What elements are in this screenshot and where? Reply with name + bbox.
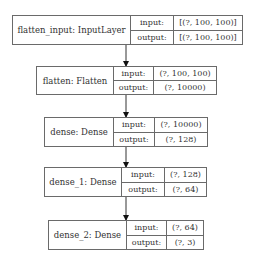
layer-node-flatten: flatten: Flatten input: (?, 100, 100) ou… [36,66,217,95]
layer-node-dense-2: dense_2: Dense input: (?, 64) output: (?… [48,220,204,250]
layer-node-dense-1: dense_1: Dense input: (?, 128) output: (… [44,167,207,197]
input-label: input: [114,67,154,80]
input-shape: (?, 64) [167,221,203,235]
layer-name: flatten: Flatten [37,67,114,94]
input-shape: (?, 128) [165,168,206,182]
input-label: input: [131,16,174,30]
input-label: input: [114,118,155,132]
output-label: output: [127,236,167,250]
layer-name: dense_2: Dense [49,221,127,249]
output-label: output: [131,31,174,45]
layer-name: flatten_input: InputLayer [13,16,131,44]
input-shape: (?, 10000) [155,118,207,132]
output-label: output: [114,81,154,94]
input-shape: [(?, 100, 100)] [174,16,242,30]
output-shape: (?, 10000) [154,81,216,94]
layer-node-dense: dense: Dense input: (?, 10000) output: (… [44,117,208,147]
output-shape: [(?, 100, 100)] [174,31,242,45]
input-shape: (?, 100, 100) [154,67,216,80]
layer-name: dense_1: Dense [45,168,122,196]
output-label: output: [122,183,165,197]
input-label: input: [127,221,167,235]
output-shape: (?, 64) [165,183,206,197]
layer-name: dense: Dense [45,118,114,146]
output-shape: (?, 128) [155,133,207,147]
layer-node-flatten-input: flatten_input: InputLayer input: [(?, 10… [12,15,243,45]
output-shape: (?, 3) [167,236,203,250]
output-label: output: [114,133,155,147]
input-label: input: [122,168,165,182]
